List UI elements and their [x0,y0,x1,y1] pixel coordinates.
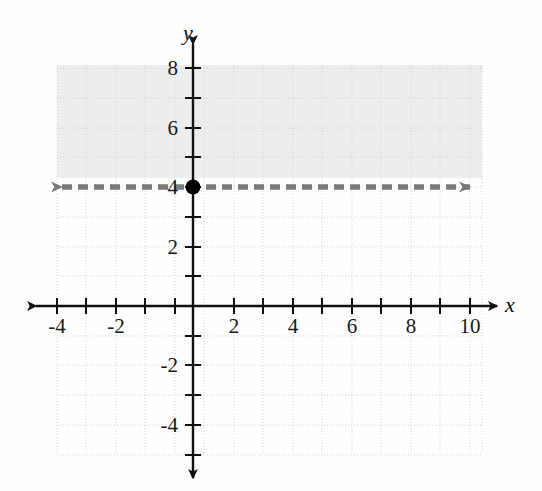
x-axis-name-label: x [505,294,515,316]
x-tick-label-neg4: -4 [48,316,66,337]
y-tick-label-neg4: -4 [143,415,178,436]
x-tick-label-neg2: -2 [107,316,125,337]
x-tick-label-2: 2 [229,316,240,337]
y-tick-label-6: 6 [150,118,178,139]
x-axis [36,298,497,314]
y-tick-label-2: 2 [150,237,178,258]
x-tick-label-4: 4 [288,316,299,337]
y-tick-label-8: 8 [150,58,178,79]
coordinate-plane-figure: -4 -2 2 4 6 8 10 8 6 4 2 -2 -4 x y [0,0,542,491]
graph-canvas [0,0,542,491]
x-tick-label-8: 8 [406,316,417,337]
x-tick-label-10: 10 [460,316,481,337]
y-tick-label-neg2: -2 [143,355,178,376]
shaded-solution-region [57,65,482,178]
x-tick-label-6: 6 [347,316,358,337]
plotted-point-0-4 [186,180,201,195]
y-tick-label-4: 4 [150,177,178,198]
y-axis-name-label: y [183,22,193,44]
